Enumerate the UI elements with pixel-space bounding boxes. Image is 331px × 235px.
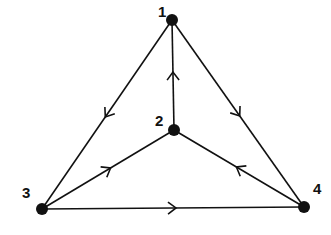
directed-graph: 1 2 3 4 [0,0,331,235]
node-3 [36,203,48,215]
node-4 [298,201,310,213]
edge-1-to-4 [172,20,304,207]
node-label-3: 3 [22,184,30,201]
node-1 [166,14,178,26]
node-label-1: 1 [158,3,166,20]
edges [42,20,304,214]
edge-1-to-3 [42,20,172,209]
edge-3-to-4 [42,207,304,209]
edge-2-to-1 [172,20,174,130]
node-label-4: 4 [313,180,322,197]
node-2 [168,124,180,136]
edge-3-to-2 [42,130,174,209]
node-label-2: 2 [155,112,163,129]
edge-4-to-2 [174,130,304,207]
arrow-icon [101,167,111,177]
